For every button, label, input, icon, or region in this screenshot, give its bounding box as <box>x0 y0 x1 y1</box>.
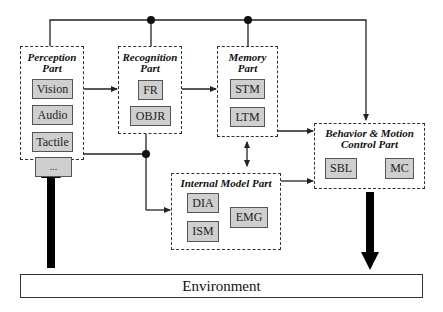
module-mc: MC <box>385 158 414 179</box>
memory-part: Memory Part STM LTM <box>217 46 278 137</box>
top-bus-line <box>50 20 366 120</box>
recognition-title: Recognition Part <box>119 52 181 74</box>
behavior-title: Behavior & Motion Control Part <box>315 128 424 150</box>
environment-box: Environment <box>20 274 423 298</box>
junction-dot <box>147 16 155 24</box>
module-objr: OBJR <box>130 106 171 126</box>
behavior-to-environment-arrow <box>361 192 379 270</box>
architecture-diagram: Perception Part Vision Audio Tactile ...… <box>0 0 443 312</box>
module-fr: FR <box>138 80 163 100</box>
internal-model-part: Internal Model Part DIA ISM EMG <box>171 173 281 250</box>
recognition-part: Recognition Part FR OBJR <box>118 46 182 134</box>
module-emg: EMG <box>230 207 268 228</box>
behavior-motion-control-part: Behavior & Motion Control Part SBL MC <box>314 123 425 189</box>
junction-dot <box>244 16 252 24</box>
module-dia: DIA <box>187 193 219 213</box>
module-vision: Vision <box>32 79 73 99</box>
module-sbl: SBL <box>325 158 357 179</box>
perception-part: Perception Part Vision Audio Tactile ... <box>20 46 84 160</box>
junction-dot <box>142 150 150 158</box>
arrow-memory-to-behavior <box>277 130 313 131</box>
module-more: ... <box>35 157 72 177</box>
module-ltm: LTM <box>230 107 265 127</box>
module-audio: Audio <box>32 105 73 125</box>
perception-title: Perception Part <box>21 52 83 74</box>
memory-title: Memory Part <box>218 52 277 74</box>
module-ism: ISM <box>187 221 219 242</box>
module-tactile: Tactile <box>32 132 73 152</box>
internal-model-title: Internal Model Part <box>172 178 280 189</box>
module-stm: STM <box>230 79 265 99</box>
